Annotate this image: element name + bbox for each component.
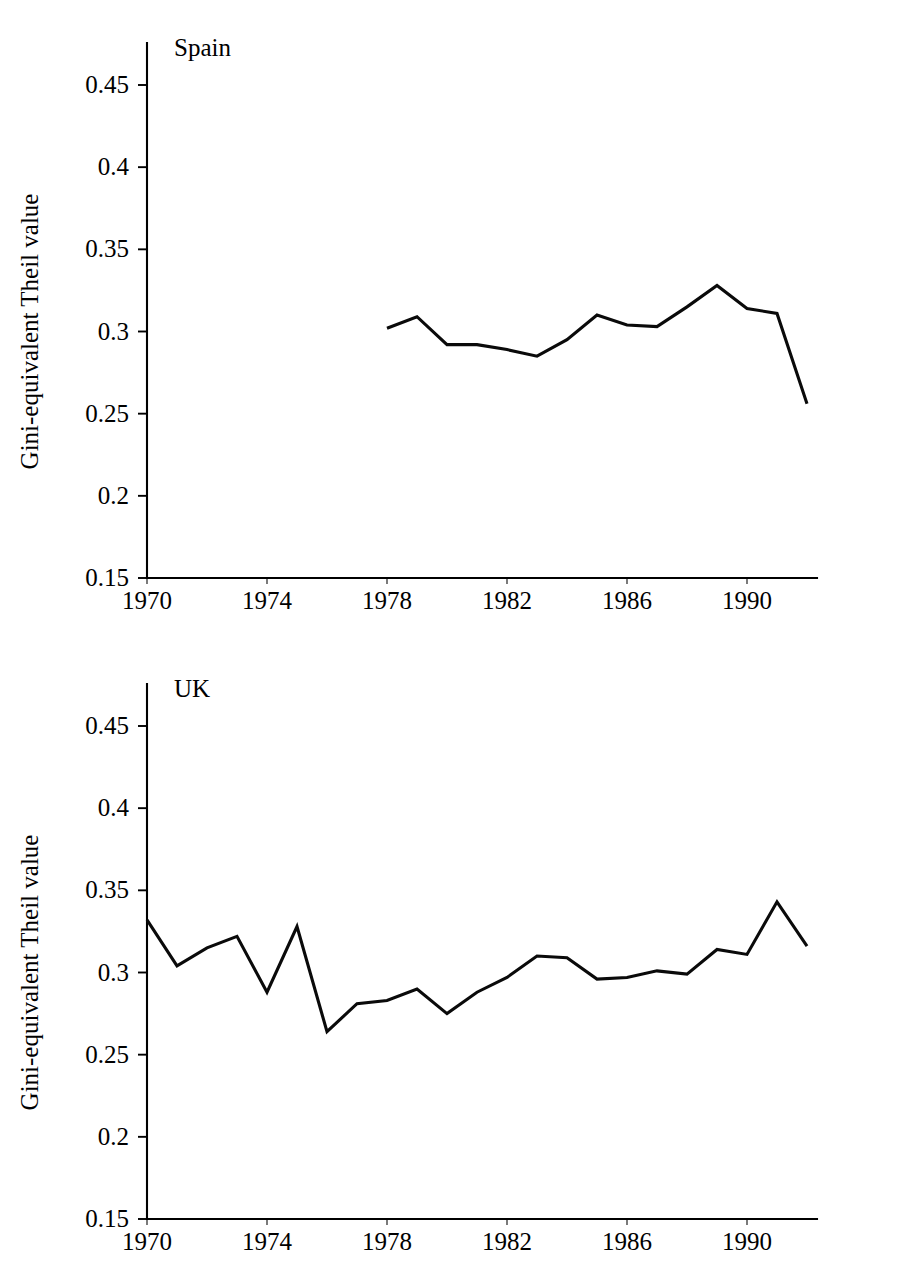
y-tick-label: 0.4 [98, 153, 130, 180]
y-tick-label: 0.25 [85, 1041, 129, 1068]
x-tick-label: 1970 [122, 1228, 172, 1255]
y-axis-title: Gini-equivalent Theil value [16, 835, 43, 1111]
y-tick-label: 0.25 [85, 400, 129, 427]
y-tick-label: 0.3 [98, 959, 129, 986]
y-tick-label: 0.2 [98, 1123, 129, 1150]
x-tick-label: 1990 [722, 1228, 772, 1255]
x-tick-label: 1982 [482, 1228, 532, 1255]
x-tick-label: 1978 [362, 1228, 412, 1255]
y-tick-label: 0.3 [98, 318, 129, 345]
y-tick-label: 0.35 [85, 235, 129, 262]
y-axis-title: Gini-equivalent Theil value [16, 194, 43, 470]
chart-panel-uk: 0.450.40.350.30.250.20.15197019741978198… [0, 641, 897, 1282]
data-series-line [147, 902, 807, 1032]
figure-page: 0.450.40.350.30.250.20.15197019741978198… [0, 0, 897, 1282]
x-tick-label: 1974 [242, 587, 293, 614]
panel-title: UK [174, 675, 210, 702]
data-series-line [387, 285, 807, 403]
x-tick-label: 1986 [602, 1228, 652, 1255]
x-tick-label: 1982 [482, 587, 532, 614]
y-tick-label: 0.2 [98, 482, 129, 509]
spain-plot-area: 0.450.40.350.30.250.20.15197019741978198… [0, 0, 897, 641]
y-tick-label: 0.35 [85, 876, 129, 903]
x-tick-label: 1986 [602, 587, 652, 614]
x-tick-label: 1970 [122, 587, 172, 614]
x-tick-label: 1974 [242, 1228, 293, 1255]
x-tick-label: 1978 [362, 587, 412, 614]
y-tick-label: 0.45 [85, 712, 129, 739]
panel-title: Spain [174, 34, 231, 61]
y-tick-label: 0.45 [85, 71, 129, 98]
y-tick-label: 0.4 [98, 794, 130, 821]
x-tick-label: 1990 [722, 587, 772, 614]
uk-plot-area: 0.450.40.350.30.250.20.15197019741978198… [0, 641, 897, 1282]
chart-panel-spain: 0.450.40.350.30.250.20.15197019741978198… [0, 0, 897, 641]
